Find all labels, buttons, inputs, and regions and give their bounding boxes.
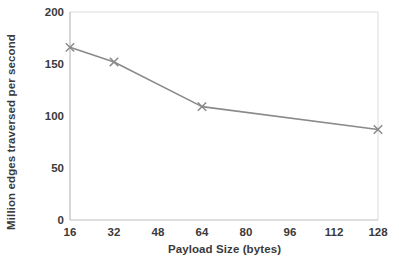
x-tick-label: 64 <box>196 226 209 238</box>
y-axis-title: Million edges traversed per second <box>0 0 22 264</box>
x-tick-label: 96 <box>284 226 297 238</box>
x-tick-label: 48 <box>152 226 165 238</box>
x-tick-label: 80 <box>240 226 253 238</box>
x-tick-label: 112 <box>325 226 344 238</box>
x-tick-label: 32 <box>108 226 121 238</box>
x-tick-label: 128 <box>368 226 387 238</box>
chart-figure: 050100150200 163248648096112128 Million … <box>0 0 399 264</box>
data-markers <box>66 43 382 134</box>
x-axis-title: Payload Size (bytes) <box>70 243 379 255</box>
y-tick-label: 150 <box>26 58 64 70</box>
y-tick-label: 200 <box>26 6 64 18</box>
y-tick-label: 100 <box>26 110 64 122</box>
x-tick-label: 16 <box>64 226 77 238</box>
x-axis-tick-labels: 163248648096112128 <box>0 226 399 242</box>
y-axis-tick-labels: 050100150200 <box>26 0 64 264</box>
y-tick-label: 0 <box>26 214 64 226</box>
data-point-marker <box>110 58 118 66</box>
y-tick-label: 50 <box>26 162 64 174</box>
